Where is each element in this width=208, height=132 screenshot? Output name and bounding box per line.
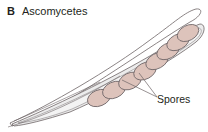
outer-sheath [10,9,201,126]
spores-label: Spores [157,93,190,105]
ascus-diagram [0,0,208,132]
